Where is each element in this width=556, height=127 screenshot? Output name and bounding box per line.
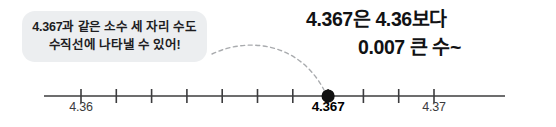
dashed-connector-arc	[212, 45, 324, 90]
tick-label-4.36: 4.36	[69, 100, 93, 114]
marked-point-label: 4.367	[312, 99, 345, 114]
number-line-illustration: 4.367과 같은 소수 세 자리 수도 수직선에 나타낼 수 있어! 4.36…	[0, 0, 556, 127]
tick-label-4.37: 4.37	[422, 100, 446, 114]
